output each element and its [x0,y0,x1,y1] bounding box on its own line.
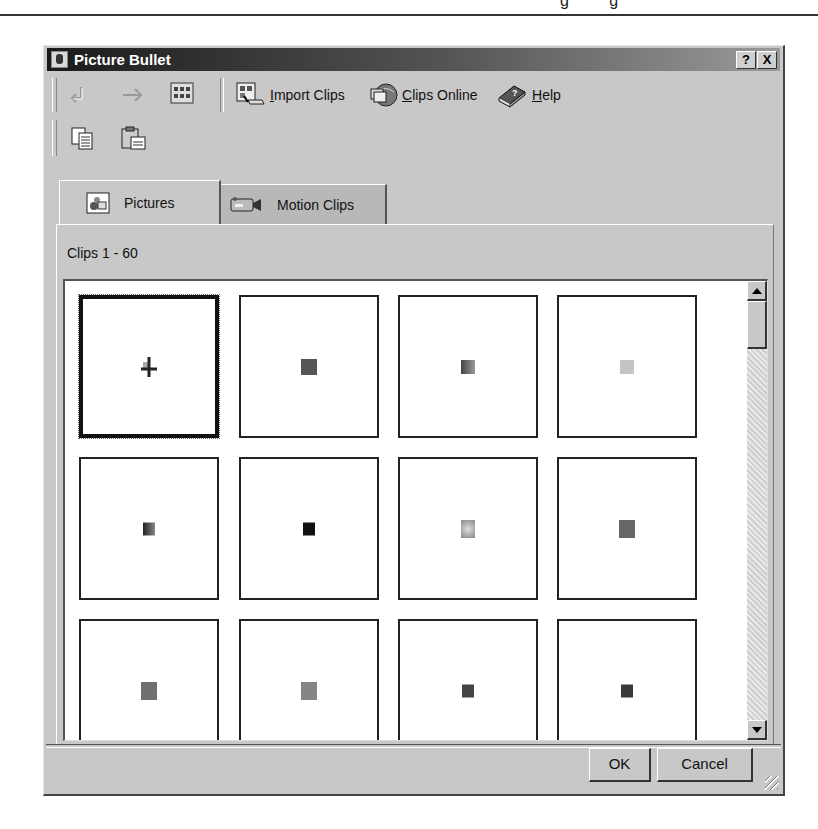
toolbar-grip[interactable] [52,120,57,156]
resize-grip-icon[interactable] [765,776,779,790]
tab-pictures-label: Pictures [124,195,175,211]
tab-motion-clips-label: Motion Clips [277,197,354,213]
page-header-fragment: g g [560,0,636,10]
clip-thumbnail[interactable] [557,295,697,438]
clip-thumbnail[interactable] [79,295,219,438]
paste-icon [120,126,148,152]
clips-count-label: Clips 1 - 60 [67,245,138,261]
clip-thumbnail[interactable] [557,457,697,600]
help-button[interactable]: ? [736,51,756,69]
close-button[interactable]: X [757,51,777,69]
svg-text:?: ? [512,88,518,98]
scroll-down-button[interactable] [747,720,767,740]
clip-thumbnail[interactable] [239,457,379,600]
toolbar-row-2 [50,118,777,160]
clips-online-button[interactable]: Clips Online [368,82,478,108]
dialog-title: Picture Bullet [74,51,171,68]
clip-thumbnail[interactable] [79,619,219,741]
toolbar-grip[interactable] [52,78,57,112]
toolbar-separator [220,78,224,112]
bullet-preview-icon [301,359,317,375]
clip-thumbnail[interactable] [239,619,379,741]
bullet-preview-icon [301,682,317,700]
bullet-preview-icon [619,520,635,538]
tab-pictures[interactable]: Pictures [59,180,221,224]
clip-thumbnail[interactable] [398,457,538,600]
bullet-preview-icon [620,360,634,374]
help-label: Help [532,87,561,103]
back-arrow-icon [68,84,94,106]
help-book-icon: ? [496,82,528,108]
copy-icon [70,126,96,152]
copy-button[interactable] [70,126,96,152]
clip-thumbnail[interactable] [239,295,379,438]
import-clips-label: Import Clips [270,87,345,103]
bullet-preview-icon [461,520,475,538]
clip-thumbnail[interactable] [557,619,697,741]
clip-gallery-icon [51,51,68,68]
forward-button[interactable] [120,84,146,106]
page-rule [0,14,818,16]
import-clips-button[interactable]: Import Clips [236,82,345,108]
bullet-preview-icon [141,682,157,700]
bullet-preview-icon [303,522,315,535]
toolbar-row-1: Import Clips Clips Online ? Help [50,76,777,116]
bullet-preview-icon [462,684,474,697]
clips-online-label: Clips Online [402,87,478,103]
bullet-preview-icon [621,684,633,697]
bullet-preview-icon [143,522,155,535]
video-camera-icon [229,195,263,215]
import-clips-icon [236,82,266,108]
bullet-preview-icon [137,355,161,379]
title-bar[interactable]: Picture Bullet ? X [47,48,780,71]
clip-grid [63,279,768,741]
paste-button[interactable] [120,126,148,152]
ok-button[interactable]: OK [589,748,651,782]
cancel-button[interactable]: Cancel [657,748,753,782]
tab-motion-clips[interactable]: Motion Clips [221,184,387,224]
clip-thumbnail[interactable] [79,457,219,600]
picture-bullet-dialog: Picture Bullet ? X Import Clips Clips On… [43,45,785,796]
pictures-icon [86,192,110,214]
vertical-scrollbar[interactable] [747,281,767,740]
globe-icon [368,82,398,108]
all-categories-button[interactable] [170,82,194,104]
tab-panel: Clips 1 - 60 [56,224,774,744]
clip-thumbnail[interactable] [398,295,538,438]
categories-grid-icon [170,82,194,104]
bullet-preview-icon [461,360,475,374]
scroll-up-button[interactable] [747,281,767,301]
forward-arrow-icon [120,84,146,106]
scroll-thumb[interactable] [747,301,767,349]
back-button[interactable] [68,84,94,106]
help-toolbar-button[interactable]: ? Help [496,82,561,108]
clip-thumbnail[interactable] [398,619,538,741]
